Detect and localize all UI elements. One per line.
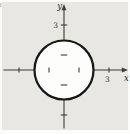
figure-circle-on-axes: y x 3 3 [0,0,130,134]
x-tick-label-3: 3 [105,75,110,84]
figure-canvas: y x 3 3 [0,0,130,134]
circle-radius-2 [35,41,94,100]
y-tick-label-3: 3 [53,21,58,30]
y-axis-label: y [56,1,62,11]
x-axis-label: x [124,73,129,83]
edge-ink-fragment [0,3,2,7]
